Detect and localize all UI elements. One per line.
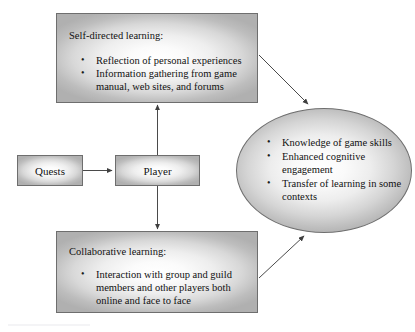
list-item: Transfer of learning in some contexts: [263, 177, 403, 204]
list-item: Interaction with group and guild members…: [77, 268, 257, 307]
collaborative-title: Collaborative learning:: [69, 246, 166, 258]
node-player[interactable]: Player: [115, 155, 200, 186]
node-collaborative-learning[interactable]: Collaborative learning: Interaction with…: [56, 231, 258, 313]
connector-self-directed-to-outcomes: [259, 55, 308, 104]
player-label: Player: [116, 164, 199, 177]
node-quests[interactable]: Quests: [17, 155, 83, 186]
collaborative-bullets: Interaction with group and guild members…: [77, 268, 257, 307]
list-item: Knowledge of game skills: [263, 136, 403, 150]
diagram-canvas: Self-directed learning: Reflection of pe…: [0, 0, 415, 332]
page-artifact-rule: [8, 324, 90, 326]
self-directed-bullets: Reflection of personal experiences Infor…: [77, 54, 257, 93]
list-item: Information gathering from game manual, …: [77, 67, 257, 93]
node-self-directed-learning[interactable]: Self-directed learning: Reflection of pe…: [56, 13, 258, 103]
connector-collaborative-to-outcomes: [259, 236, 304, 278]
quests-label: Quests: [18, 164, 82, 177]
list-item: Enhanced cognitive engagement: [263, 150, 403, 177]
outcomes-bullets: Knowledge of game skills Enhanced cognit…: [263, 136, 403, 204]
list-item: Reflection of personal experiences: [77, 54, 257, 67]
self-directed-title: Self-directed learning:: [69, 30, 163, 42]
node-learning-outcomes[interactable]: Knowledge of game skills Enhanced cognit…: [236, 108, 412, 233]
